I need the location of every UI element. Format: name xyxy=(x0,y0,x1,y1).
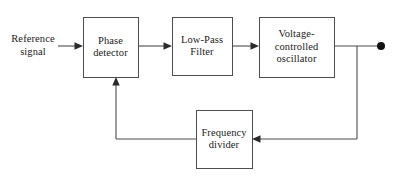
label-reference-signal-line1: Reference xyxy=(6,33,60,46)
arrowhead-into-phase-detector-bottom xyxy=(112,77,119,86)
label-reference-signal: Reference signal xyxy=(6,33,60,58)
label-reference-signal-line2: signal xyxy=(6,46,60,59)
block-phase-detector[interactable] xyxy=(84,18,139,78)
diagram-canvas xyxy=(0,0,397,181)
block-voltage-controlled-oscillator[interactable] xyxy=(260,18,335,78)
block-frequency-divider[interactable] xyxy=(197,111,253,169)
block-low-pass-filter[interactable] xyxy=(173,18,233,76)
output-terminal-dot xyxy=(377,42,385,50)
arrowhead-into-vco xyxy=(251,42,260,49)
arrowhead-into-low-pass-filter xyxy=(164,42,173,49)
arrowhead-into-phase-detector-left xyxy=(75,42,84,49)
pll-block-diagram: Phase detector Low-Pass Filter Voltage- … xyxy=(0,0,397,181)
arrowhead-into-frequency-divider xyxy=(252,135,261,142)
